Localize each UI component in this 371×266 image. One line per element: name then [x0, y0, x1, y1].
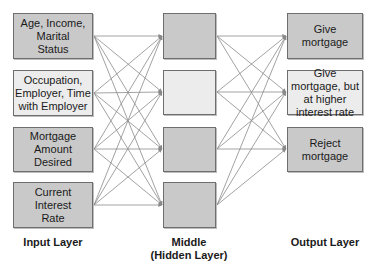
- output-node-give-mortgage: Give mortgage: [287, 13, 363, 59]
- hidden-node-2: [163, 70, 216, 115]
- output-layer-label: Output Layer: [281, 236, 369, 249]
- node-text: Give mortgage, but at higher interest ra…: [288, 67, 362, 119]
- hidden-layer-label-line2: (Hidden Layer): [139, 249, 239, 262]
- node-text: Give mortgage: [288, 23, 362, 49]
- node-text: Occupation, Employer, Time with Employer: [14, 74, 92, 113]
- input-node-mortgage-amount: Mortgage Amount Desired: [13, 127, 93, 172]
- input-node-interest-rate: Current Interest Rate: [13, 182, 93, 228]
- hidden-node-4: [163, 182, 216, 228]
- output-node-higher-rate: Give mortgage, but at higher interest ra…: [287, 70, 363, 115]
- hidden-node-3: [163, 127, 216, 172]
- node-text: Reject mortgage: [288, 137, 362, 163]
- node-text: Age, Income, Marital Status: [14, 17, 92, 56]
- hidden-layer-label-line1: Middle: [139, 236, 239, 249]
- input-node-age-income-marital: Age, Income, Marital Status: [13, 13, 93, 59]
- hidden-node-1: [163, 13, 216, 59]
- node-text: Current Interest Rate: [14, 186, 92, 225]
- node-text: Mortgage Amount Desired: [14, 130, 92, 169]
- input-node-occupation-employer: Occupation, Employer, Time with Employer: [13, 70, 93, 116]
- hidden-layer-label: Middle (Hidden Layer): [139, 236, 239, 262]
- output-node-reject-mortgage: Reject mortgage: [287, 127, 363, 172]
- input-layer-label: Input Layer: [13, 236, 93, 249]
